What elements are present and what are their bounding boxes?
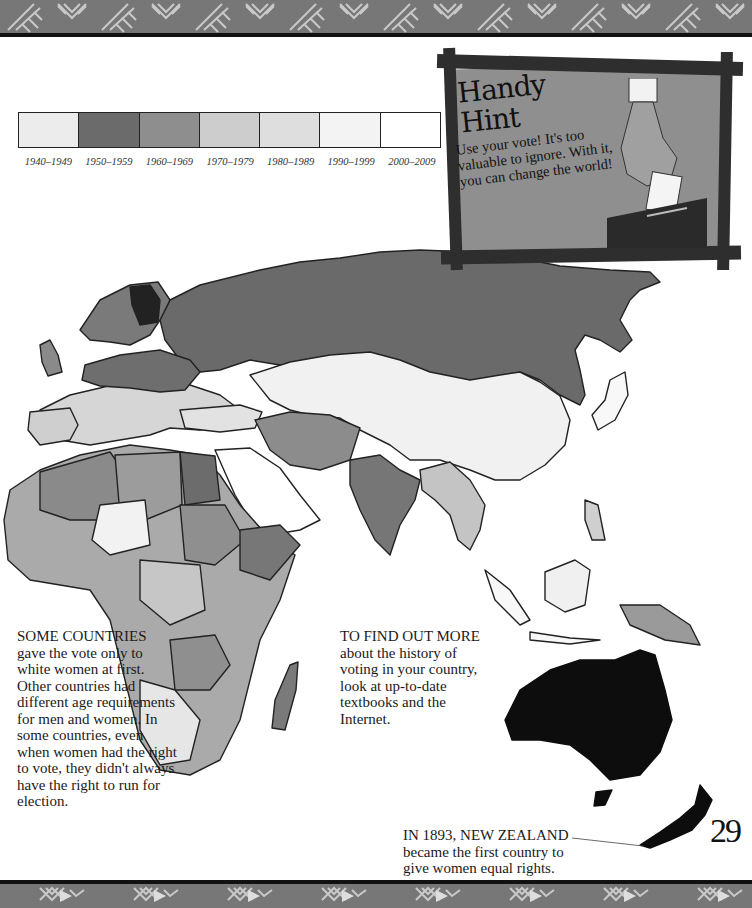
map-region-india — [350, 455, 420, 555]
map-region-java — [530, 632, 600, 644]
lattice-pattern-icon — [0, 0, 752, 33]
map-region-west-africa-pale — [92, 500, 150, 555]
legend-swatch-1990s — [320, 113, 380, 147]
legend-label: 1980–1989 — [260, 156, 321, 167]
note-lead: TO FIND OUT MORE — [340, 628, 480, 644]
legend-label: 1970–1979 — [200, 156, 261, 167]
map-region-madagascar — [272, 662, 298, 730]
handy-hint-box: Handy Hint Use your vote! It's too valua… — [437, 48, 743, 270]
legend-labels: 1940–1949 1950–1959 1960–1969 1970–1979 … — [18, 156, 442, 167]
page-number: 29 — [710, 812, 740, 850]
legend-swatch-1960s — [140, 113, 200, 147]
map-region-japan — [592, 372, 628, 430]
map-region-new-zealand — [640, 785, 712, 848]
map-region-borneo — [545, 560, 590, 612]
map-region-horn — [240, 525, 300, 580]
map-region-australia — [505, 650, 672, 780]
map-region-philippines — [585, 500, 605, 540]
map-region-se-asia — [420, 462, 485, 550]
legend-swatch-1970s — [200, 113, 260, 147]
legend-label: 1950–1959 — [79, 156, 140, 167]
map-region-uk — [40, 340, 62, 376]
note-body: about the history of voting in your coun… — [340, 645, 477, 727]
page-body: 1940–1949 1950–1959 1960–1969 1970–1979 … — [0, 37, 752, 880]
hint-frame-right — [717, 52, 733, 270]
legend-swatch-1940s — [19, 113, 79, 147]
note-lead: IN 1893, NEW ZEALAND — [403, 827, 569, 843]
note-body: gave the vote only to white women at fir… — [17, 645, 177, 810]
top-decorative-border — [0, 0, 752, 37]
map-region-turkey — [180, 405, 262, 432]
legend-swatch-1950s — [79, 113, 139, 147]
find-out-more-note: TO FIND OUT MORE about the history of vo… — [340, 628, 480, 727]
legend-swatch-1980s — [260, 113, 320, 147]
legend-label: 1960–1969 — [139, 156, 200, 167]
some-countries-note: SOME COUNTRIES gave the vote only to whi… — [17, 628, 177, 810]
map-region-egypt — [180, 452, 220, 505]
bottom-decorative-border — [0, 880, 752, 908]
legend-label: 2000–2009 — [381, 156, 442, 167]
note-lead: SOME COUNTRIES — [17, 628, 147, 644]
lattice-pattern-icon — [0, 884, 752, 908]
note-body: became the first country to give women e… — [403, 844, 564, 877]
map-region-iberia — [28, 408, 78, 445]
new-zealand-note: IN 1893, NEW ZEALAND became the first co… — [403, 827, 588, 877]
map-region-new-guinea — [620, 605, 700, 645]
hint-title: Handy Hint — [456, 70, 550, 139]
map-region-tasmania — [594, 790, 612, 806]
decade-legend: 1940–1949 1950–1959 1960–1969 1970–1979 … — [18, 112, 442, 167]
legend-label: 1940–1949 — [18, 156, 79, 167]
legend-swatches — [18, 112, 441, 148]
legend-label: 1990–1999 — [321, 156, 382, 167]
legend-swatch-2000s — [381, 113, 440, 147]
map-region-sumatra — [485, 570, 530, 625]
